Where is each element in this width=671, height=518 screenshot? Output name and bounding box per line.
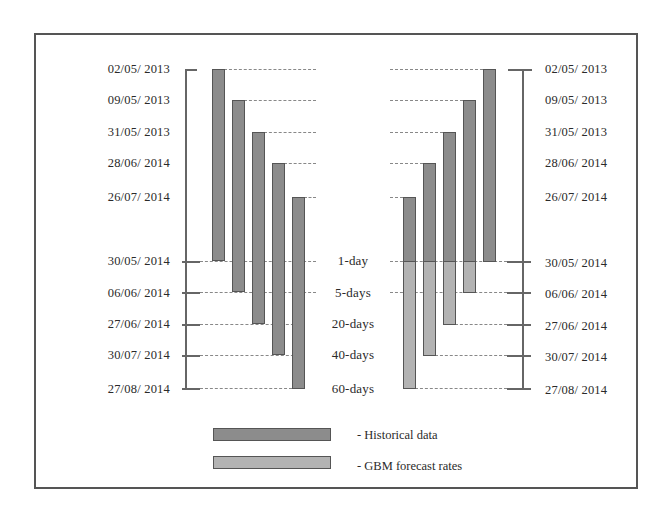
left-end-date-3: 27/06/ 2014 (50, 317, 170, 331)
left-start-date-4: 28/06/ 2014 (50, 156, 170, 170)
left-axis-line (185, 69, 187, 389)
right-bar-20-days-historical (443, 132, 456, 262)
left-axis-tick (182, 355, 200, 357)
right-guide-line (390, 69, 483, 70)
right-start-date-1: 02/05/ 2013 (545, 62, 607, 76)
left-axis-tick (182, 292, 200, 294)
right-guide-line (390, 163, 423, 164)
right-guide-line (455, 324, 507, 325)
right-bar-5-days-historical (463, 100, 476, 262)
right-bar-5-days-forecast (463, 261, 476, 293)
legend-label-historical: - Historical data (357, 428, 438, 443)
horizon-label-5-days: 5-days (313, 286, 393, 300)
left-bar-40-days (272, 163, 285, 355)
left-bar-60-days (292, 197, 305, 389)
left-bar-1-day (212, 69, 225, 261)
left-guide-line (200, 324, 304, 325)
right-guide-line (390, 197, 403, 198)
horizon-label-1-day: 1-day (313, 254, 393, 268)
right-axis-tick-top (508, 69, 532, 71)
right-bar-20-days-forecast (443, 261, 456, 325)
right-guide-line (435, 355, 507, 356)
left-start-date-2: 09/05/ 2013 (50, 93, 170, 107)
left-guide-line (200, 355, 304, 356)
right-bar-60-days-forecast (403, 261, 416, 389)
right-start-date-2: 09/05/ 2013 (545, 93, 607, 107)
right-end-date-2: 06/06/ 2014 (545, 287, 607, 301)
right-end-date-3: 27/06/ 2014 (545, 319, 607, 333)
legend-label-forecast: - GBM forecast rates (357, 459, 462, 474)
left-axis-tick-top (185, 69, 197, 71)
right-guide-line (415, 388, 507, 389)
right-bar-1-day-historical (483, 69, 496, 262)
right-axis-tick (507, 292, 531, 294)
right-end-date-1: 30/05/ 2014 (545, 256, 607, 270)
right-axis-tick (507, 261, 531, 263)
left-axis-tick (182, 324, 200, 326)
right-axis-tick (507, 324, 531, 326)
right-axis-tick (507, 355, 531, 357)
left-guide-line (244, 100, 316, 101)
left-start-date-5: 26/07/ 2014 (50, 190, 170, 204)
right-start-date-3: 31/05/ 2013 (545, 125, 607, 139)
left-end-date-2: 06/06/ 2014 (50, 286, 170, 300)
right-end-date-5: 27/08/ 2014 (545, 383, 607, 397)
right-bar-40-days-historical (423, 163, 436, 262)
right-bar-60-days-historical (403, 197, 416, 262)
right-start-date-5: 26/07/ 2014 (545, 190, 607, 204)
left-start-date-1: 02/05/ 2013 (50, 62, 170, 76)
left-start-date-3: 31/05/ 2013 (50, 125, 170, 139)
legend-swatch-historical (213, 428, 331, 441)
left-guide-line (200, 388, 292, 389)
left-guide-line (284, 163, 316, 164)
left-guide-line (224, 69, 316, 70)
legend-swatch-forecast (213, 456, 331, 469)
left-bar-5-days (232, 100, 245, 292)
horizon-label-20-days: 20-days (313, 317, 393, 331)
horizon-label-60-days: 60-days (313, 382, 393, 396)
left-axis-tick (182, 261, 200, 263)
left-guide-line (304, 197, 316, 198)
left-axis-tick (182, 388, 200, 390)
left-end-date-4: 30/07/ 2014 (50, 348, 170, 362)
horizon-label-40-days: 40-days (313, 348, 393, 362)
left-end-date-1: 30/05/ 2014 (50, 254, 170, 268)
right-end-date-4: 30/07/ 2014 (545, 350, 607, 364)
right-start-date-4: 28/06/ 2014 (545, 156, 607, 170)
left-end-date-5: 27/08/ 2014 (50, 382, 170, 396)
left-bar-20-days (252, 132, 265, 324)
right-axis-line (522, 69, 524, 389)
right-guide-line (390, 100, 463, 101)
right-bar-40-days-forecast (423, 261, 436, 356)
left-guide-line (264, 132, 316, 133)
right-guide-line (390, 132, 443, 133)
right-axis-tick (507, 388, 531, 390)
